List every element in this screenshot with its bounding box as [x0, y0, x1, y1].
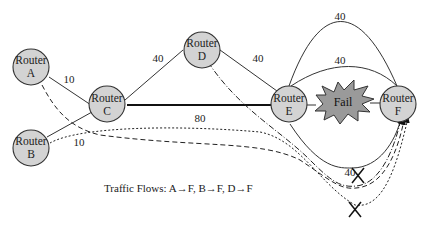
cost-b-c: 10	[74, 136, 86, 148]
cost-c-e: 80	[195, 112, 207, 124]
link-d-e	[220, 50, 277, 91]
svg-text:E: E	[285, 105, 292, 117]
router-c: Router C	[89, 86, 125, 122]
svg-text:D: D	[198, 50, 206, 62]
svg-text:Router: Router	[273, 92, 304, 104]
cost-a-c: 10	[64, 73, 76, 85]
flow-d-to-f	[208, 62, 401, 186]
fail-label: Fail	[334, 95, 353, 109]
router-b: Router B	[13, 130, 49, 166]
link-e-f-middle	[291, 67, 397, 87]
svg-text:C: C	[103, 105, 111, 117]
svg-text:Router: Router	[15, 135, 46, 147]
cost-e-f-lower: 40	[345, 166, 357, 178]
router-f: Router F	[380, 86, 416, 122]
cost-c-d: 40	[153, 52, 165, 64]
router-a: Router A	[13, 49, 49, 85]
svg-text:Router: Router	[382, 92, 413, 104]
svg-text:Router: Router	[186, 37, 217, 49]
router-d: Router D	[184, 32, 220, 68]
failure-x-mark-2	[349, 202, 361, 217]
cost-e-f-middle: 40	[335, 54, 347, 66]
cost-e-f-upper: 40	[335, 10, 347, 22]
cost-d-e: 40	[253, 52, 265, 64]
fail-starburst-icon: Fail	[315, 80, 374, 124]
network-diagram: Fail Router A Router B Router C Router D…	[0, 0, 433, 231]
svg-text:Router: Router	[91, 92, 122, 104]
router-e: Router E	[271, 86, 307, 122]
svg-text:Router: Router	[15, 54, 46, 66]
svg-text:F: F	[395, 105, 401, 117]
svg-text:A: A	[27, 67, 36, 79]
link-e-f-lower	[290, 122, 400, 168]
traffic-flows-caption: Traffic Flows: A→F, B→F, D→F	[104, 182, 253, 194]
svg-text:B: B	[27, 148, 35, 160]
